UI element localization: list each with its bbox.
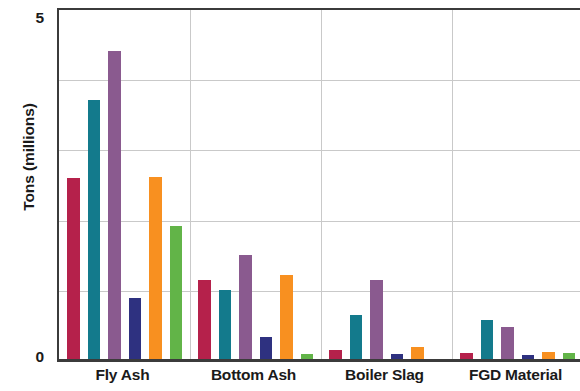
category-label: Boiler Slag [319, 366, 450, 384]
y-tick-label-min: 0 [10, 348, 44, 366]
bar [280, 275, 293, 359]
bar [108, 51, 121, 359]
bar [198, 280, 211, 359]
bar [88, 100, 101, 359]
gridline-vertical [452, 10, 453, 359]
bar [481, 320, 494, 359]
bar [370, 280, 383, 359]
category-label: Fly Ash [57, 366, 188, 384]
bar [329, 350, 342, 359]
bar [411, 347, 424, 359]
category-label: Bottom Ash [188, 366, 319, 384]
bar [219, 290, 232, 359]
category-label: FGD Material [450, 366, 580, 384]
bar-chart: Tons (millions) 5 0 Fly AshBottom AshBoi… [0, 0, 580, 391]
gridline-vertical [321, 10, 322, 359]
y-tick-label-max: 5 [10, 9, 44, 27]
bar [501, 327, 514, 359]
gridline-horizontal [59, 221, 580, 222]
bar [170, 226, 183, 359]
bar [67, 178, 80, 359]
bar [542, 352, 555, 359]
x-axis-line [57, 359, 580, 362]
bar [129, 298, 142, 359]
gridline-horizontal [59, 291, 580, 292]
bar [149, 177, 162, 359]
gridline-vertical [190, 10, 191, 359]
gridline-horizontal [59, 150, 580, 151]
y-axis-title: Tons (millions) [20, 87, 38, 227]
bar [260, 337, 273, 359]
bar [239, 255, 252, 359]
bar [350, 315, 363, 359]
plot-area [57, 8, 580, 359]
gridline-horizontal [59, 80, 580, 81]
